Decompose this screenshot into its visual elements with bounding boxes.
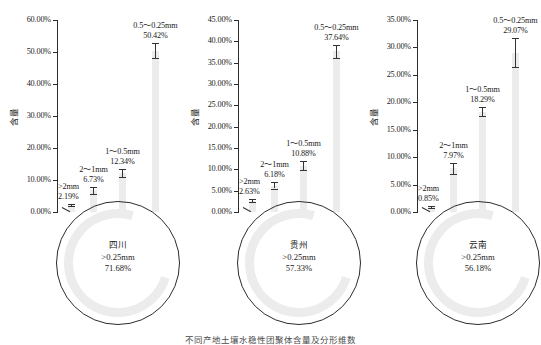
y-axis-tick-label: 0.00% bbox=[9, 208, 51, 216]
error-bar bbox=[482, 107, 483, 116]
y-axis-tick bbox=[234, 84, 238, 85]
bar-0.5～0.25mm bbox=[512, 53, 519, 212]
y-axis-tick-label: 10.00% bbox=[369, 153, 411, 161]
bar-annotation: 2～1mm6.73% bbox=[59, 165, 129, 184]
y-axis-tick bbox=[234, 63, 238, 64]
y-axis-tick-label: 40.00% bbox=[190, 37, 232, 45]
error-cap-bottom bbox=[90, 194, 97, 195]
y-axis-tick bbox=[413, 185, 417, 186]
error-cap-top bbox=[450, 163, 457, 164]
bar-value-label: 2.19% bbox=[58, 192, 118, 202]
error-cap-top bbox=[512, 38, 519, 39]
y-axis-tick bbox=[53, 20, 57, 21]
error-cap-bottom bbox=[333, 58, 340, 59]
y-axis-title: 含量 bbox=[188, 107, 200, 126]
y-axis-tick bbox=[53, 84, 57, 85]
y-axis-tick-label: 35.00% bbox=[190, 59, 232, 67]
error-cap-top bbox=[249, 199, 256, 200]
bar-annotation: 1～0.5mm12.34% bbox=[88, 147, 158, 166]
error-cap-top bbox=[152, 43, 159, 44]
bar-value-label: 18.29% bbox=[448, 95, 518, 105]
bar-category-label: >2mm bbox=[418, 184, 478, 194]
error-bar bbox=[122, 169, 123, 177]
y-axis-tick-label: 30.00% bbox=[369, 43, 411, 51]
bar-annotation: >2mm2.63% bbox=[239, 177, 299, 196]
error-cap-bottom bbox=[512, 67, 519, 68]
y-axis-tick-label: 0.00% bbox=[369, 208, 411, 216]
y-axis-tick bbox=[413, 47, 417, 48]
error-cap-top bbox=[479, 107, 486, 108]
y-axis-tick bbox=[413, 157, 417, 158]
region-name: 贵州 bbox=[249, 240, 349, 252]
region-name: 云南 bbox=[428, 240, 528, 252]
y-axis-tick bbox=[234, 191, 238, 192]
y-axis-tick bbox=[413, 130, 417, 131]
bar-value-label: 6.73% bbox=[59, 175, 129, 185]
y-axis-tick bbox=[234, 41, 238, 42]
bar-category-label: 1～0.5mm bbox=[88, 147, 158, 157]
y-axis-tick-label: 15.00% bbox=[369, 126, 411, 134]
aggregate-value-label: 56.18% bbox=[428, 263, 528, 275]
y-axis-tick-label: 40.00% bbox=[9, 80, 51, 88]
aggregate-value-label: 71.68% bbox=[68, 263, 168, 275]
aggregate-value-label: 57.33% bbox=[249, 263, 349, 275]
bar-category-label: 0.5～0.25mm bbox=[481, 16, 541, 26]
y-axis-tick-label: 5.00% bbox=[369, 181, 411, 189]
bar-value-label: 2.63% bbox=[239, 187, 299, 197]
region-name: 四川 bbox=[68, 240, 168, 252]
bar-value-label: 7.97% bbox=[419, 151, 489, 161]
y-axis-tick-label: 10.00% bbox=[9, 176, 51, 184]
y-axis-tick-label: 20.00% bbox=[9, 144, 51, 152]
bar-0.5～0.25mm bbox=[152, 51, 159, 212]
y-axis-tick-label: 45.00% bbox=[190, 16, 232, 24]
y-axis-tick bbox=[53, 116, 57, 117]
bar-value-label: 10.88% bbox=[269, 149, 339, 159]
y-axis-tick-label: 5.00% bbox=[190, 187, 232, 195]
error-cap-bottom bbox=[479, 116, 486, 117]
y-axis-tick-label: 20.00% bbox=[369, 98, 411, 106]
y-axis-tick-label: 35.00% bbox=[369, 16, 411, 24]
error-cap-top bbox=[333, 45, 340, 46]
bar-category-label: 2～1mm bbox=[59, 165, 129, 175]
bar-annotation: 2～1mm6.18% bbox=[240, 160, 310, 179]
error-cap-bottom bbox=[300, 170, 307, 171]
bar-annotation: 1～0.5mm18.29% bbox=[448, 85, 518, 104]
error-bar bbox=[515, 38, 516, 67]
y-axis-tick-label: 10.00% bbox=[190, 165, 232, 173]
y-axis-tick bbox=[234, 20, 238, 21]
error-bar bbox=[93, 187, 94, 194]
error-bar bbox=[336, 45, 337, 59]
error-bar bbox=[155, 43, 156, 58]
error-cap-top bbox=[428, 206, 435, 207]
y-axis-tick bbox=[53, 52, 57, 53]
bar-annotation: >2mm0.85% bbox=[418, 184, 478, 203]
circle-annotation: 四川>0.25mm71.68% bbox=[68, 240, 168, 275]
error-cap-top bbox=[68, 204, 75, 205]
y-axis-tick bbox=[413, 212, 417, 213]
bar-category-label: 2～1mm bbox=[240, 160, 310, 170]
aggregate-size-label: >0.25mm bbox=[68, 252, 168, 264]
bar-0.5～0.25mm bbox=[333, 51, 340, 212]
error-cap-bottom bbox=[271, 189, 278, 190]
y-axis-tick-label: 0.00% bbox=[190, 208, 232, 216]
y-axis-title: 含量 bbox=[7, 107, 19, 126]
error-cap-bottom bbox=[249, 202, 256, 203]
y-axis-tick bbox=[413, 75, 417, 76]
y-axis-tick bbox=[234, 169, 238, 170]
y-axis-tick bbox=[53, 212, 57, 213]
aggregate-size-label: >0.25mm bbox=[249, 252, 349, 264]
figure-caption: 不同产地土壤水稳性团聚体含量及分形维数 bbox=[0, 333, 541, 345]
y-axis-tick-label: 50.00% bbox=[9, 48, 51, 56]
error-cap-bottom bbox=[428, 208, 435, 209]
error-cap-bottom bbox=[119, 177, 126, 178]
circle-annotation: 云南>0.25mm56.18% bbox=[428, 240, 528, 275]
bar-value-label: 29.07% bbox=[481, 26, 541, 36]
y-axis-tick-label: 60.00% bbox=[9, 16, 51, 24]
error-bar bbox=[453, 163, 454, 174]
error-cap-bottom bbox=[68, 206, 75, 207]
error-bar bbox=[303, 161, 304, 170]
y-axis-tick-label: 25.00% bbox=[369, 71, 411, 79]
bar-annotation: 2～1mm7.97% bbox=[419, 141, 489, 160]
bar-annotation: 0.5～0.25mm29.07% bbox=[481, 16, 541, 35]
